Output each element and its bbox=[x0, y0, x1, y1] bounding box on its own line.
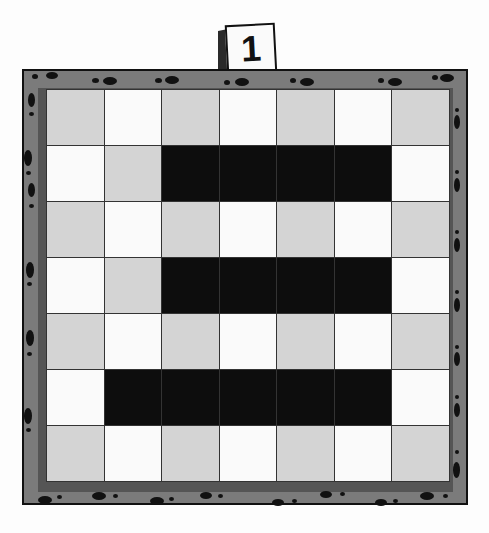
grid-cell-r3-c2[interactable] bbox=[162, 258, 219, 313]
grid-cell-r1-c5[interactable] bbox=[335, 146, 392, 201]
frame-spot-icon bbox=[340, 492, 345, 496]
frame-spot-icon bbox=[218, 494, 223, 498]
frame-spot-icon bbox=[29, 112, 34, 116]
frame-spot-icon bbox=[92, 78, 99, 83]
grid-cell-r4-c2[interactable] bbox=[162, 314, 219, 369]
frame-spot-icon bbox=[46, 72, 58, 79]
frame-spot-icon bbox=[455, 170, 459, 174]
grid-cell-r6-c1[interactable] bbox=[105, 426, 162, 481]
frame-spot-icon bbox=[224, 80, 230, 85]
grid-cell-r1-c3[interactable] bbox=[220, 146, 277, 201]
frame-spot-icon bbox=[28, 93, 35, 107]
grid-cell-r4-c5[interactable] bbox=[335, 314, 392, 369]
frame-spot-icon bbox=[453, 462, 460, 478]
grid-cell-r3-c5[interactable] bbox=[335, 258, 392, 313]
grid-cell-r2-c5[interactable] bbox=[335, 202, 392, 257]
frame-spot-icon bbox=[292, 499, 297, 503]
grid-cell-r0-c1[interactable] bbox=[105, 90, 162, 145]
grid-cell-r2-c1[interactable] bbox=[105, 202, 162, 257]
frame-spot-icon bbox=[24, 408, 32, 424]
frame-spot-icon bbox=[454, 403, 460, 417]
grid-cell-r3-c4[interactable] bbox=[277, 258, 334, 313]
frame-spot-icon bbox=[388, 78, 402, 86]
grid-cell-r0-c5[interactable] bbox=[335, 90, 392, 145]
frame-spot-icon bbox=[155, 78, 162, 83]
grid-cell-r6-c3[interactable] bbox=[220, 426, 277, 481]
grid-cell-r4-c4[interactable] bbox=[277, 314, 334, 369]
frame-spot-icon bbox=[455, 395, 459, 399]
puzzle-number: 1 bbox=[225, 23, 278, 76]
frame-spot-icon bbox=[57, 495, 62, 499]
frame-spot-icon bbox=[290, 78, 296, 83]
grid-cell-r5-c4[interactable] bbox=[277, 370, 334, 425]
frame-spot-icon bbox=[454, 178, 460, 192]
grid-cell-r6-c6[interactable] bbox=[392, 426, 449, 481]
frame-spot-icon bbox=[440, 74, 454, 82]
grid-cell-r0-c3[interactable] bbox=[220, 90, 277, 145]
frame-spot-icon bbox=[26, 428, 31, 432]
grid-cell-r0-c2[interactable] bbox=[162, 90, 219, 145]
grid-cell-r3-c1[interactable] bbox=[105, 258, 162, 313]
frame-spot-icon bbox=[27, 352, 32, 356]
frame-spot-icon bbox=[150, 497, 164, 505]
frame-spot-icon bbox=[235, 78, 249, 86]
grid-cell-r3-c6[interactable] bbox=[392, 258, 449, 313]
grid-cell-r5-c5[interactable] bbox=[335, 370, 392, 425]
grid-cell-r1-c2[interactable] bbox=[162, 146, 219, 201]
frame-spot-icon bbox=[300, 78, 314, 86]
frame-spot-icon bbox=[378, 78, 384, 83]
frame-spot-icon bbox=[27, 282, 32, 286]
grid-cell-r4-c1[interactable] bbox=[105, 314, 162, 369]
grid-cell-r2-c2[interactable] bbox=[162, 202, 219, 257]
grid-cell-r5-c0[interactable] bbox=[47, 370, 104, 425]
frame-spot-icon bbox=[454, 352, 460, 366]
grid-cell-r6-c0[interactable] bbox=[47, 426, 104, 481]
frame-spot-icon bbox=[455, 345, 459, 349]
grid-cell-r6-c4[interactable] bbox=[277, 426, 334, 481]
puzzle-grid bbox=[46, 89, 450, 482]
grid-cell-r0-c4[interactable] bbox=[277, 90, 334, 145]
grid-cell-r2-c3[interactable] bbox=[220, 202, 277, 257]
grid-cell-r4-c0[interactable] bbox=[47, 314, 104, 369]
grid-cell-r0-c6[interactable] bbox=[392, 90, 449, 145]
grid-cell-r0-c0[interactable] bbox=[47, 90, 104, 145]
frame-spot-icon bbox=[443, 494, 448, 498]
frame-spot-icon bbox=[103, 77, 117, 85]
grid-cell-r6-c5[interactable] bbox=[335, 426, 392, 481]
frame-spot-icon bbox=[29, 204, 34, 208]
frame-spot-icon bbox=[272, 499, 284, 506]
frame-spot-icon bbox=[92, 492, 106, 500]
frame-spot-icon bbox=[26, 171, 31, 175]
frame-spot-icon bbox=[455, 450, 459, 454]
grid-cell-r1-c6[interactable] bbox=[392, 146, 449, 201]
grid-cell-r4-c6[interactable] bbox=[392, 314, 449, 369]
frame-spot-icon bbox=[393, 499, 398, 503]
grid-cell-r2-c4[interactable] bbox=[277, 202, 334, 257]
frame-spot-icon bbox=[454, 115, 460, 129]
frame-spot-icon bbox=[26, 330, 34, 346]
frame-spot-icon bbox=[455, 230, 459, 234]
grid-cell-r5-c6[interactable] bbox=[392, 370, 449, 425]
grid-cell-r4-c3[interactable] bbox=[220, 314, 277, 369]
frame-spot-icon bbox=[28, 183, 35, 197]
frame-spot-icon bbox=[455, 290, 459, 294]
grid-cell-r5-c3[interactable] bbox=[220, 370, 277, 425]
grid-cell-r1-c0[interactable] bbox=[47, 146, 104, 201]
frame-spot-icon bbox=[165, 76, 179, 84]
grid-cell-r1-c1[interactable] bbox=[105, 146, 162, 201]
frame-spot-icon bbox=[375, 499, 387, 506]
grid-cell-r6-c2[interactable] bbox=[162, 426, 219, 481]
frame-spot-icon bbox=[200, 492, 212, 499]
grid-cell-r3-c0[interactable] bbox=[47, 258, 104, 313]
frame-spot-icon bbox=[455, 108, 459, 112]
grid-cell-r3-c3[interactable] bbox=[220, 258, 277, 313]
grid-cell-r2-c0[interactable] bbox=[47, 202, 104, 257]
frame-spot-icon bbox=[169, 497, 174, 501]
frame-spot-icon bbox=[24, 150, 32, 166]
frame-spot-icon bbox=[38, 496, 52, 504]
grid-cell-r2-c6[interactable] bbox=[392, 202, 449, 257]
frame-spot-icon bbox=[26, 262, 34, 278]
grid-cell-r5-c2[interactable] bbox=[162, 370, 219, 425]
grid-cell-r5-c1[interactable] bbox=[105, 370, 162, 425]
grid-cell-r1-c4[interactable] bbox=[277, 146, 334, 201]
